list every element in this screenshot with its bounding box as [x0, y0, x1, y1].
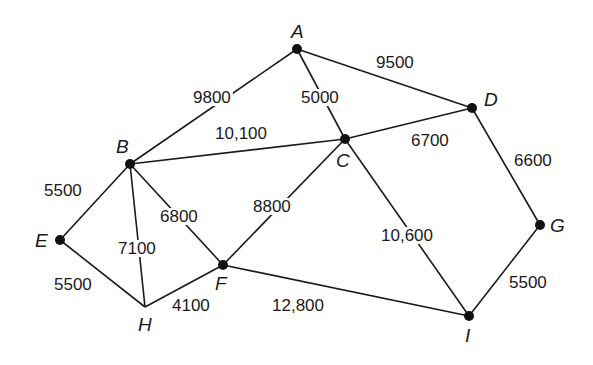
edge-weight-b-h: 7100: [116, 239, 158, 258]
node-b-dot-icon: [125, 159, 135, 169]
nodes-layer: [55, 44, 545, 321]
edge-weight-text: 9500: [376, 53, 414, 72]
node-a-dot-icon: [292, 44, 302, 54]
edge-weight-text: 5500: [44, 181, 82, 200]
edge-weight-g-i: 5500: [507, 273, 549, 292]
edge-weight-text: 7100: [118, 239, 156, 258]
node-label-a: A: [290, 21, 304, 42]
edge-b-e: [60, 164, 130, 240]
node-i-dot-icon: [464, 311, 474, 321]
node-label-e: E: [35, 230, 48, 251]
node-label-d: D: [484, 89, 498, 110]
edge-weight-text: 5500: [54, 275, 92, 294]
edge-weight-e-h: 5500: [52, 275, 94, 294]
edge-weight-text: 9800: [193, 88, 231, 107]
node-label-h: H: [138, 314, 152, 335]
edge-weight-a-b: 9800: [191, 88, 233, 107]
weighted-graph-diagram: 98009500500010,1006700660055007100680088…: [0, 0, 593, 365]
edge-weight-text: 10,600: [381, 226, 433, 245]
edge-weight-c-d: 6700: [409, 131, 451, 150]
edge-weight-b-c: 10,100: [213, 124, 269, 143]
node-f-dot-icon: [218, 260, 228, 270]
edge-weight-h-f: 4100: [170, 296, 212, 315]
node-label-g: G: [550, 215, 565, 236]
node-label-f: F: [215, 273, 228, 294]
edge-weight-text: 8800: [253, 197, 291, 216]
node-g-dot-icon: [535, 220, 545, 230]
node-label-b: B: [116, 136, 129, 157]
node-label-i: I: [465, 325, 471, 346]
node-c-dot-icon: [340, 134, 350, 144]
edge-weight-text: 12,800: [272, 296, 324, 315]
edge-weight-f-i: 12,800: [270, 296, 326, 315]
edge-g-i: [469, 225, 540, 316]
edge-weight-text: 6600: [514, 151, 552, 170]
node-label-c: C: [336, 150, 350, 171]
edge-weight-text: 4100: [172, 296, 210, 315]
edge-weight-text: 5500: [509, 273, 547, 292]
edge-weight-text: 6700: [411, 131, 449, 150]
edge-weight-text: 5000: [301, 88, 339, 107]
edge-labels-layer: 98009500500010,1006700660055007100680088…: [42, 53, 554, 315]
node-d-dot-icon: [467, 103, 477, 113]
edge-weight-b-f: 6800: [158, 207, 200, 226]
edge-weight-text: 10,100: [215, 124, 267, 143]
edge-weight-c-i: 10,600: [379, 226, 435, 245]
edge-weight-a-d: 9500: [374, 53, 416, 72]
edge-f-i: [223, 265, 469, 316]
edge-b-h: [130, 164, 145, 307]
node-e-dot-icon: [55, 235, 65, 245]
edge-weight-d-g: 6600: [512, 151, 554, 170]
edge-weight-c-f: 8800: [251, 197, 293, 216]
edge-c-d: [345, 108, 472, 139]
edge-weight-text: 6800: [160, 207, 198, 226]
edge-weight-a-c: 5000: [299, 88, 341, 107]
edge-weight-b-e: 5500: [42, 181, 84, 200]
